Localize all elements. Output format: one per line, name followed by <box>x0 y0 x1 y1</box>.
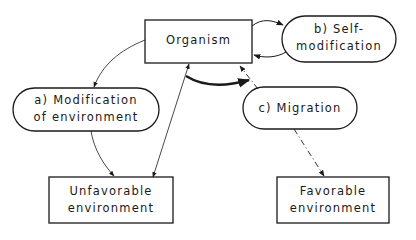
favorable-line1: Favorable <box>277 183 389 200</box>
favorable-line2: environment <box>277 200 389 217</box>
modification-environment-label: a) Modification of environment <box>13 92 159 126</box>
unfavorable-line1: Unfavorable <box>49 183 173 200</box>
unfavorable-line2: environment <box>49 200 173 217</box>
modification-environment-line2: of environment <box>13 109 159 126</box>
arrow-organism-to-modification <box>94 40 145 87</box>
organism-label: Organism <box>145 32 252 49</box>
favorable-environment-label: Favorable environment <box>277 183 389 217</box>
unfavorable-environment-label: Unfavorable environment <box>49 183 173 217</box>
arrow-migration-to-organism <box>240 66 258 89</box>
migration-label: c) Migration <box>243 100 357 117</box>
modification-environment-line1: a) Modification <box>13 92 159 109</box>
self-modification-line2: modification <box>282 38 396 55</box>
arrow-modification-to-unfavorable <box>91 131 114 176</box>
arrow-organism-to-self-modification <box>252 21 283 26</box>
self-modification-line1: b) Self- <box>282 21 396 38</box>
arrow-bold-curve-to-migration <box>186 76 249 85</box>
self-modification-label: b) Self- modification <box>282 21 396 55</box>
arrow-migration-to-favorable <box>294 129 324 176</box>
